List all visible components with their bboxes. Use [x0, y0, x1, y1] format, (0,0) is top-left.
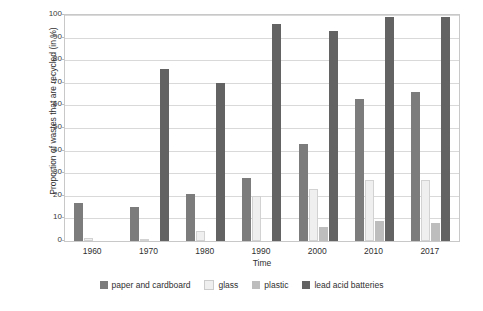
bar — [385, 17, 394, 241]
bar — [355, 99, 364, 241]
bar — [216, 83, 225, 241]
x-tick-label: 1960 — [64, 246, 120, 256]
x-tick-label: 1970 — [120, 246, 176, 256]
y-tick-label: 30 — [40, 168, 62, 176]
chart-legend: paper and cardboardglassplasticlead acid… — [0, 280, 483, 290]
x-tick-label: 2000 — [289, 246, 345, 256]
legend-item: glass — [204, 280, 238, 290]
bar — [252, 196, 261, 241]
legend-swatch — [100, 281, 108, 289]
y-tick-label: 60 — [40, 100, 62, 108]
bar — [375, 221, 384, 241]
bar — [421, 180, 430, 241]
y-tick-label: 50 — [40, 123, 62, 131]
y-tick-label: 10 — [40, 213, 62, 221]
legend-swatch — [204, 280, 214, 290]
legend-label: lead acid batteries — [314, 281, 383, 290]
y-tick-label: 80 — [40, 55, 62, 63]
bar — [319, 227, 328, 241]
bar-group — [234, 15, 290, 241]
bar — [441, 17, 450, 241]
recycling-bar-chart: Proportion of wastes that are recycled (… — [0, 0, 483, 311]
legend-item: plastic — [252, 281, 288, 290]
x-tick-label: 2017 — [402, 246, 458, 256]
bar-group — [65, 15, 121, 241]
bar — [329, 31, 338, 241]
bar — [196, 231, 205, 241]
x-tick-label: 2010 — [345, 246, 401, 256]
legend-label: paper and cardboard — [112, 281, 191, 290]
x-tick-label: 1990 — [233, 246, 289, 256]
bar — [272, 24, 281, 241]
y-tick-label: 100 — [40, 10, 62, 18]
legend-label: plastic — [264, 281, 288, 290]
bar-group — [121, 15, 177, 241]
bar — [84, 238, 93, 241]
y-axis-ticks: 0102030405060708090100 — [36, 14, 62, 242]
y-tick-label: 40 — [40, 146, 62, 154]
bar-group — [403, 15, 459, 241]
legend-item: paper and cardboard — [100, 281, 191, 290]
bar — [431, 223, 440, 241]
legend-item: lead acid batteries — [302, 281, 383, 290]
legend-label: glass — [218, 281, 238, 290]
y-axis-title-holder: Proportion of wastes that are recycled (… — [14, 14, 32, 242]
y-tick-label: 20 — [40, 191, 62, 199]
y-tick-label: 70 — [40, 78, 62, 86]
plot-area — [64, 14, 460, 242]
bar — [130, 207, 139, 241]
legend-swatch — [252, 281, 260, 289]
bar — [411, 92, 420, 241]
y-tick-label: 0 — [40, 236, 62, 244]
legend-swatch — [302, 281, 310, 289]
bar — [160, 69, 169, 241]
bar — [140, 239, 149, 241]
bar — [74, 203, 83, 241]
bar-group — [346, 15, 402, 241]
bar-group — [178, 15, 234, 241]
bar-group — [290, 15, 346, 241]
bar — [242, 178, 251, 241]
bar — [309, 189, 318, 241]
bar — [365, 180, 374, 241]
x-tick-label: 1980 — [177, 246, 233, 256]
bar — [299, 144, 308, 241]
bar — [186, 194, 195, 241]
x-axis-title: Time — [64, 258, 460, 268]
y-tick-label: 90 — [40, 33, 62, 41]
bars-layer — [65, 15, 459, 241]
